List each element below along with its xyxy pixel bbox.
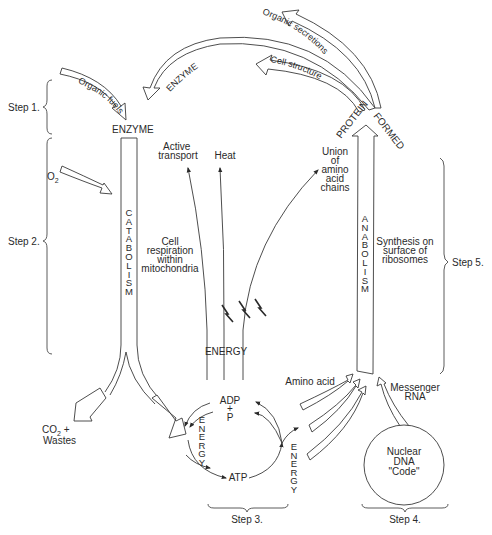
- wastes-label: Wastes: [43, 435, 76, 446]
- amino-acid-label: Amino acid: [285, 376, 334, 387]
- enzyme-return-label: ENZYME: [164, 61, 199, 93]
- anabolism-label: ANABOLISM: [361, 213, 369, 294]
- atp-label: ATP: [229, 472, 248, 483]
- energy-right-label: ENERGY: [290, 441, 298, 495]
- step-5-label: Step 5.: [452, 257, 484, 268]
- synthesis-label: Synthesis on surface of ribosomes: [376, 236, 433, 265]
- oxygen-label: O2: [47, 171, 59, 184]
- active-transport-label: Active transport: [158, 141, 198, 161]
- step-4-label: Step 4.: [389, 514, 421, 525]
- step-1-label: Step 1.: [8, 102, 40, 113]
- step-1-brace: Step 1.: [8, 80, 52, 134]
- phosphate-label: P: [227, 412, 234, 423]
- energy-center-label: ENERGY: [205, 346, 248, 357]
- step-3-brace: Step 3.: [208, 504, 288, 525]
- svg-text:chains: chains: [321, 182, 350, 193]
- step-2-label: Step 2.: [8, 236, 40, 247]
- oxygen-arrow: O2: [47, 166, 112, 194]
- energy-left-label: ENERGY: [198, 414, 206, 468]
- svg-text:mitochondria: mitochondria: [141, 263, 199, 274]
- heat-label: Heat: [214, 150, 235, 161]
- organic-fuels-arrow: Organic fuels: [60, 68, 126, 120]
- energy-to-cycle-arrow: [152, 395, 186, 438]
- union-label: Union of amino acid chains: [321, 146, 350, 193]
- svg-text:ribosomes: ribosomes: [382, 254, 428, 265]
- svg-text:"Code": "Code": [388, 466, 419, 477]
- step-4-brace: Step 4.: [362, 504, 448, 525]
- enzyme-top-label: ENZYME: [112, 124, 154, 135]
- cell-respiration-label: Cell respiration within mitochondria: [141, 236, 199, 274]
- step-5-brace: Step 5.: [440, 158, 484, 374]
- step-3-label: Step 3.: [231, 514, 263, 525]
- svg-text:RNA: RNA: [404, 391, 425, 402]
- metabolism-diagram: Step 1. Step 2. Organic fuels ENZYME CAT…: [0, 0, 492, 535]
- step-2-brace: Step 2.: [8, 138, 52, 354]
- waste-arrow: [74, 388, 106, 421]
- nuclear-dna-circle: Nuclear DNA "Code": [364, 425, 444, 505]
- formed-label: FORMED: [371, 110, 406, 151]
- messenger-rna-label: Messenger RNA: [390, 382, 440, 402]
- organic-fuels-label: Organic fuels: [77, 76, 126, 116]
- catabolism-label: CATABOLISM: [125, 207, 133, 297]
